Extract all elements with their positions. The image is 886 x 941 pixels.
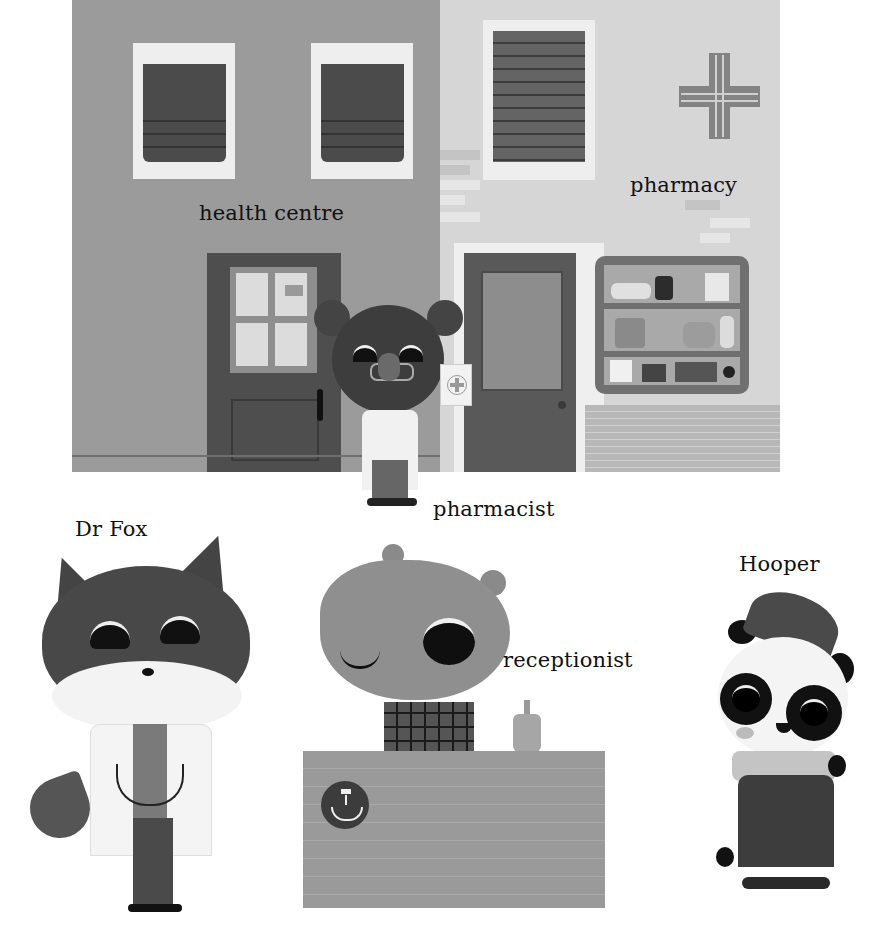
fox-trousers	[133, 818, 173, 908]
product-checker-box	[610, 360, 632, 382]
soap-dispenser	[511, 700, 543, 752]
panda-mitten-right	[828, 755, 846, 777]
reception-desk	[303, 751, 605, 908]
panda-nose	[776, 723, 792, 733]
hooper-panda	[688, 595, 863, 900]
product-box	[705, 273, 729, 301]
rhino-smile	[340, 650, 380, 669]
fox-eye-right	[160, 616, 200, 644]
product-tub	[611, 283, 651, 299]
door-window	[230, 267, 317, 373]
fox-nose	[142, 668, 154, 676]
panda-eye-patch-left	[720, 673, 772, 725]
panda-cheek	[736, 727, 754, 739]
product-dark-box	[642, 364, 666, 382]
bear-eye-left	[353, 345, 377, 362]
product-pump-bottles	[683, 322, 715, 348]
pharmacy-door	[464, 253, 576, 472]
pharmacy-building	[440, 0, 780, 472]
panda-shoes	[742, 877, 830, 889]
door-knob	[558, 401, 566, 409]
pharmacy-window	[483, 20, 595, 180]
fox-shoes	[128, 904, 182, 912]
rhino-head	[320, 560, 510, 700]
pharmacy-pavement	[585, 405, 780, 472]
panda-mitten-left	[716, 847, 734, 867]
bear-trousers	[372, 460, 408, 502]
panda-coat	[738, 775, 834, 867]
hooper-label: Hooper	[739, 552, 820, 576]
fox-tail	[22, 770, 99, 847]
receptionist-rhino	[320, 540, 520, 755]
prescription-bag	[440, 364, 472, 406]
fox-eye-left	[90, 621, 130, 649]
door-panel	[231, 399, 319, 461]
bear-eye-right	[399, 345, 423, 362]
pharmacist-bear	[312, 300, 472, 512]
bear-snout	[378, 353, 400, 381]
fox-head	[42, 566, 250, 716]
cross-icon	[670, 53, 760, 141]
health-centre-window-right	[311, 43, 413, 179]
hanging-sign	[285, 285, 303, 296]
health-centre-window-left	[133, 43, 235, 179]
product-label-box	[675, 362, 717, 382]
product-jar	[615, 318, 645, 348]
bear-head	[332, 305, 444, 413]
rhino-checked-shirt	[384, 702, 474, 754]
receptionist-label: receptionist	[503, 648, 633, 672]
dr-fox	[30, 528, 260, 918]
panda-eye-patch-right	[786, 685, 842, 741]
pharmacy-shelf-display	[595, 256, 749, 394]
product-bottle	[655, 276, 673, 300]
bear-shoes	[367, 498, 417, 506]
pharmacy-label: pharmacy	[630, 173, 737, 197]
product-baby-bottle	[720, 316, 734, 348]
hand-washing-icon	[321, 781, 369, 829]
product-round-tin	[723, 366, 735, 378]
pharmacist-label: pharmacist	[433, 497, 555, 521]
rhino-eye	[423, 618, 475, 665]
door-glass	[481, 271, 563, 391]
panda-head	[718, 637, 848, 757]
health-centre-label: health centre	[199, 201, 344, 225]
